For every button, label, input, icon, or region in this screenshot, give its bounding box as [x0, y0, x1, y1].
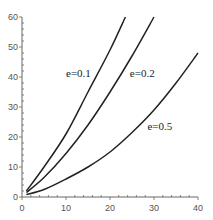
line-chart: 0102030405060010203040 e=0.1e=0.2e=0.5 — [0, 0, 213, 220]
curves — [26, 17, 198, 195]
x-tick-label: 20 — [105, 203, 115, 213]
y-tick-label: 10 — [8, 162, 18, 172]
x-tick-label: 30 — [149, 203, 159, 213]
x-tick-label: 10 — [61, 203, 71, 213]
y-tick-label: 50 — [8, 42, 18, 52]
x-tick-label: 40 — [193, 203, 203, 213]
y-tick-label: 0 — [13, 192, 18, 202]
curve-e=0.1 — [26, 17, 125, 191]
y-tick-label: 60 — [8, 12, 18, 22]
curve-label: e=0.2 — [130, 67, 155, 79]
curve-e=0.5 — [26, 53, 198, 195]
x-tick-label: 0 — [19, 203, 24, 213]
y-tick-label: 30 — [8, 102, 18, 112]
curve-label: e=0.1 — [66, 67, 91, 79]
curve-label: e=0.5 — [147, 120, 172, 132]
y-tick-label: 40 — [8, 72, 18, 82]
y-tick-label: 20 — [8, 132, 18, 142]
